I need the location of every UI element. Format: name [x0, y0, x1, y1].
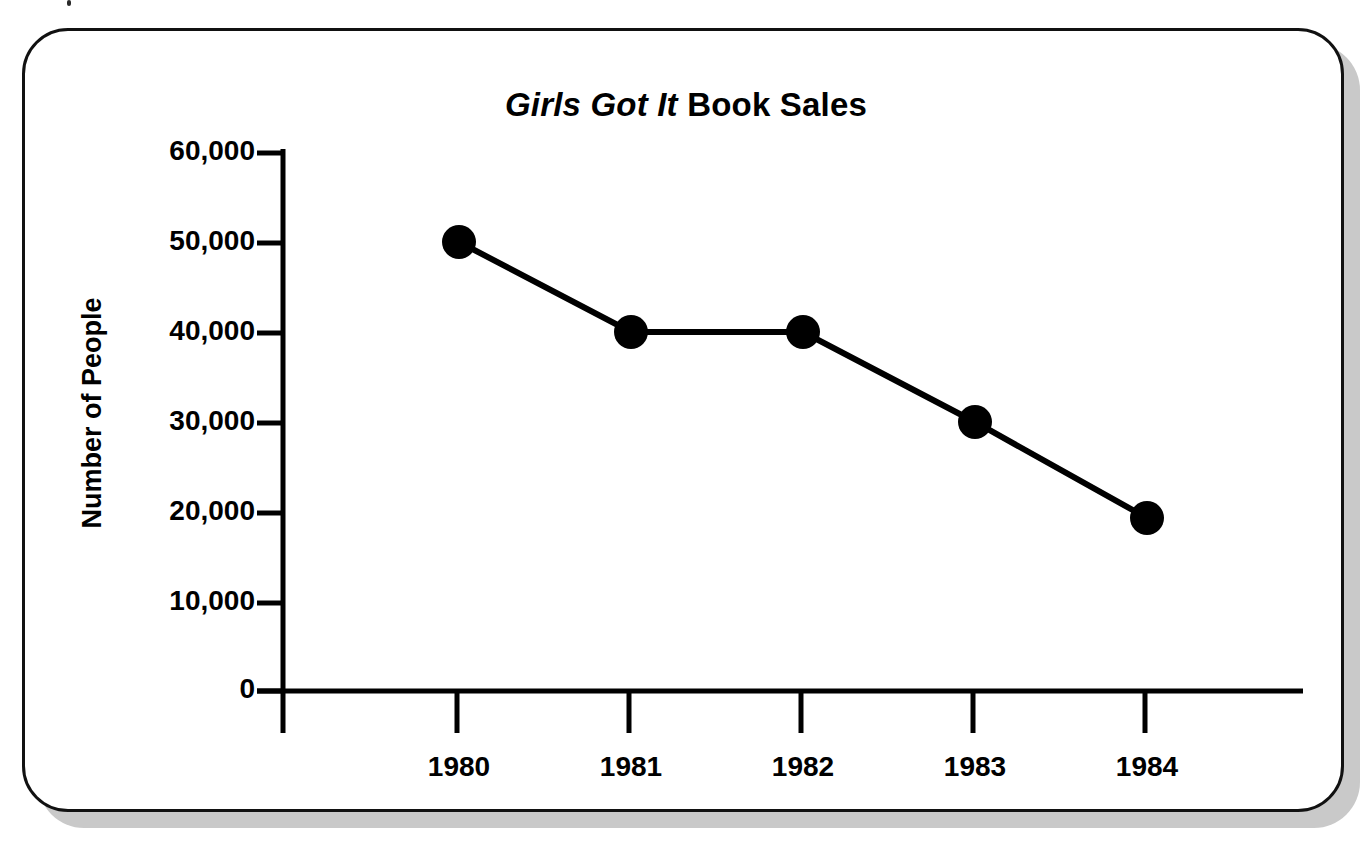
x-axis-label-1983: 1983 — [895, 751, 1055, 783]
x-axis-label-1984: 1984 — [1067, 751, 1227, 783]
x-axis-tick-labels: 1980 1981 1982 1983 1984 — [25, 31, 1347, 815]
x-axis-label-1981: 1981 — [551, 751, 711, 783]
plot-area: Number of People 60,000 50,000 40,000 30… — [25, 31, 1347, 815]
x-axis-label-1980: 1980 — [379, 751, 539, 783]
x-axis-label-1982: 1982 — [723, 751, 883, 783]
scan-artifact-dot — [67, 0, 71, 6]
page-root: Girls Got It Book Sales — [0, 0, 1366, 847]
chart-card: Girls Got It Book Sales — [22, 28, 1344, 812]
